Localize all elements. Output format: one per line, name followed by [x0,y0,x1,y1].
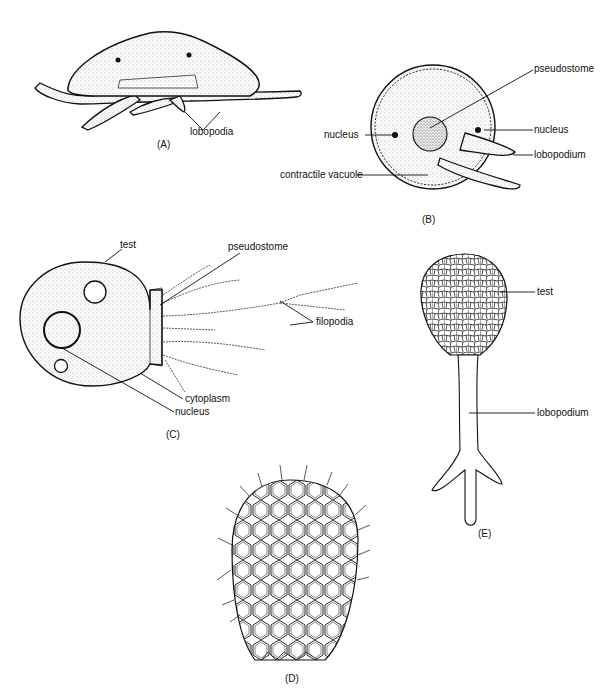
panel-a: lobopodia (A) [35,32,301,150]
test-body [20,262,162,386]
panel-label-a: (A) [157,139,170,150]
label-nucleus-left: nucleus [324,129,358,140]
nucleus-dot [116,58,121,63]
label-test: test [120,239,136,250]
lobopodium-e [432,355,502,525]
pseudostome-leader-c [160,253,240,305]
test-leader [105,249,122,262]
label-pseudostome-c: pseudostome [228,241,288,252]
panel-d: (D) [217,465,370,684]
label-filopodia: filopodia [316,316,354,327]
label-lobopodium: lobopodium [534,149,586,160]
test-shell-d [232,480,358,660]
amoeba-figure: lobopodia (A) pseudostome nucleus nucleu… [0,0,610,694]
panel-b: pseudostome nucleus nucleus lobopodium c… [280,63,594,225]
label-lobopodia: lobopodia [190,126,234,137]
panel-c: test pseudostome filopodia cytoplasm nuc… [20,239,358,440]
label-pseudostome: pseudostome [534,63,594,74]
panel-label-b: (B) [422,214,435,225]
nucleus-dot [187,53,192,58]
label-nucleus-right: nucleus [534,124,568,135]
nucleus-right [475,127,481,133]
panel-e: test lobopodium (E) [421,254,589,539]
panel-label-d: (D) [285,673,299,684]
label-lobopodium-e: lobopodium [537,407,589,418]
cytoplasm-leader [140,373,183,399]
label-cytoplasm: cytoplasm [185,393,230,404]
test-shell-e [421,254,507,355]
label-contractile-vacuole: contractile vacuole [280,169,363,180]
label-test-e: test [537,286,553,297]
panel-label-e: (E) [478,528,491,539]
vacuole-large [84,281,106,303]
pseudostome-ring [413,117,447,151]
vacuole-small [55,360,68,373]
panel-label-c: (C) [166,429,180,440]
nucleus-c [44,312,80,348]
label-nucleus-c: nucleus [175,406,209,417]
test-shell [68,32,259,96]
